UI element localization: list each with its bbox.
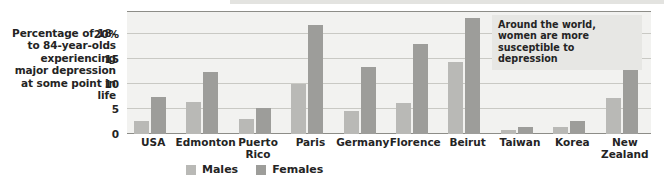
bar-males[interactable] [186,102,201,135]
bar-males[interactable] [291,84,306,134]
bar-group [337,12,389,134]
bar-females[interactable] [203,72,218,134]
y-tick-label-5: 5 [79,103,119,115]
top-band-decoration [230,0,664,4]
legend-item-females[interactable]: Females [256,163,323,176]
bar-females[interactable] [151,97,166,134]
y-tick-label-15: 15 [79,53,119,65]
bar-group [179,12,231,134]
bar-females[interactable] [308,25,323,134]
bar-group [389,12,441,134]
bar-females[interactable] [413,44,428,134]
bar-males[interactable] [448,62,463,135]
legend-swatch-males-icon [186,165,196,175]
bar-males[interactable] [396,103,411,134]
x-axis-category-labels: USAEdmontonPuerto RicoParisGermanyFloren… [127,137,651,163]
annotation-callout: Around the world, women are more suscept… [492,15,642,70]
bar-group [441,12,493,134]
bar-group [127,12,179,134]
bar-males[interactable] [501,130,516,134]
bar-females[interactable] [465,18,480,134]
legend-swatch-females-icon [256,165,266,175]
legend-label-males: Males [202,163,238,176]
y-axis-tick-labels: 05101520% [79,11,123,134]
y-tick-label-10: 10 [79,78,119,90]
legend-label-females: Females [272,163,323,176]
bar-males[interactable] [134,121,149,134]
bar-females[interactable] [518,127,533,135]
y-tick-label-20: 20% [79,28,119,40]
bar-males[interactable] [344,111,359,134]
bar-males[interactable] [553,127,568,135]
chart-legend: Males Females [186,163,323,176]
bar-males[interactable] [606,98,621,135]
depression-bar-chart: Percentage of 18- to 84-year-olds experi… [0,0,664,188]
bar-males[interactable] [239,119,254,134]
bar-females[interactable] [361,67,376,135]
bar-group [232,12,284,134]
legend-item-males[interactable]: Males [186,163,238,176]
bar-females[interactable] [256,108,271,135]
x-label-new-zealand: New Zealand [594,137,656,160]
y-tick-label-0: 0 [79,128,119,140]
bar-group [284,12,336,134]
bar-females[interactable] [570,121,585,134]
